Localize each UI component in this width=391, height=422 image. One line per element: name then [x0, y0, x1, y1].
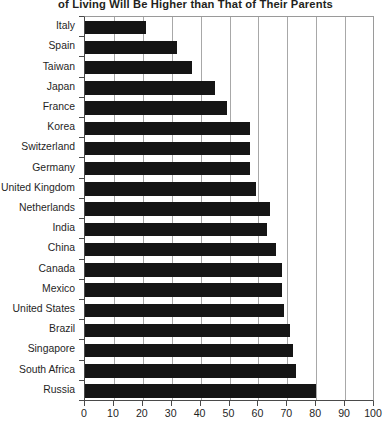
x-axis-tick-labels: 0102030405060708090100: [84, 406, 375, 422]
bar[interactable]: [85, 364, 296, 377]
bar[interactable]: [85, 283, 282, 296]
y-axis-label: Canada: [39, 263, 75, 275]
x-axis-tick-label: 80: [300, 406, 330, 420]
bar[interactable]: [85, 263, 282, 276]
bar[interactable]: [85, 21, 146, 34]
y-axis-label: China: [48, 242, 75, 254]
x-axis-tick-label: 20: [127, 406, 157, 420]
bars-layer: [85, 17, 373, 400]
y-axis-label: Italy: [56, 20, 75, 32]
bar[interactable]: [85, 182, 256, 195]
x-axis-tick-label: 90: [329, 406, 359, 420]
y-axis-label: Singapore: [28, 343, 75, 355]
x-axis-tick-label: 0: [69, 406, 99, 420]
chart-title: of Living Will Be Higher than That of Th…: [0, 0, 391, 12]
y-axis-label: Taiwan: [43, 61, 75, 73]
bar[interactable]: [85, 162, 250, 175]
x-axis-tick-label: 30: [156, 406, 186, 420]
bar-chart: of Living Will Be Higher than That of Th…: [0, 0, 391, 422]
y-axis-label: Brazil: [49, 323, 75, 335]
y-axis-label: Switzerland: [21, 141, 75, 153]
bar[interactable]: [85, 223, 267, 236]
y-axis-label: India: [52, 222, 75, 234]
bar[interactable]: [85, 142, 250, 155]
y-axis-label: Russia: [43, 384, 75, 396]
y-axis-label: Japan: [47, 81, 75, 93]
y-axis-label: United Kingdom: [1, 182, 75, 194]
y-axis-label: Mexico: [42, 283, 75, 295]
y-axis-label: Netherlands: [19, 202, 75, 214]
y-axis-label: France: [43, 101, 75, 113]
bar[interactable]: [85, 101, 227, 114]
x-axis-tick-label: 60: [242, 406, 272, 420]
x-axis-tick-label: 40: [185, 406, 215, 420]
bar[interactable]: [85, 81, 215, 94]
x-axis-tick-label: 50: [214, 406, 244, 420]
x-axis-tick-label: 100: [358, 406, 388, 420]
bar[interactable]: [85, 324, 290, 337]
y-axis-label: Spain: [48, 40, 75, 52]
bar[interactable]: [85, 304, 284, 317]
bar[interactable]: [85, 243, 276, 256]
y-axis-label: South Africa: [19, 364, 75, 376]
y-axis-label: Germany: [32, 162, 75, 174]
x-axis-tick-label: 10: [98, 406, 128, 420]
bar[interactable]: [85, 202, 270, 215]
y-axis-category-labels: ItalySpainTaiwanJapanFranceKoreaSwitzerl…: [0, 16, 80, 401]
x-axis-tick-label: 70: [271, 406, 301, 420]
y-axis-label: Korea: [47, 121, 75, 133]
plot-area: [84, 16, 374, 401]
bar[interactable]: [85, 384, 316, 397]
bar[interactable]: [85, 41, 177, 54]
y-axis-label: United States: [13, 303, 75, 315]
bar[interactable]: [85, 61, 192, 74]
bar[interactable]: [85, 122, 250, 135]
bar[interactable]: [85, 344, 293, 357]
